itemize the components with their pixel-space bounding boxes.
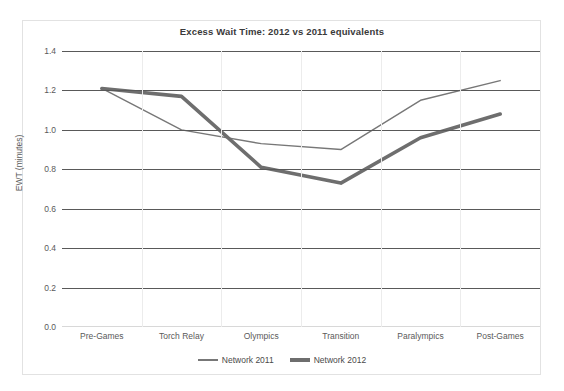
y-tick-label: 0.8 bbox=[22, 164, 56, 174]
legend-label: Network 2011 bbox=[222, 355, 274, 365]
chart-container: Excess Wait Time: 2012 vs 2011 equivalen… bbox=[0, 0, 564, 391]
y-tick-label: 1.0 bbox=[22, 125, 56, 135]
y-tick-label: 0.6 bbox=[22, 204, 56, 214]
chart-title: Excess Wait Time: 2012 vs 2011 equivalen… bbox=[0, 26, 564, 37]
category-divider bbox=[301, 51, 302, 327]
y-tick-label: 1.4 bbox=[22, 46, 56, 56]
y-tick-label: 0.4 bbox=[22, 243, 56, 253]
x-tick-label: Paralympics bbox=[397, 331, 443, 341]
x-tick-label: Torch Relay bbox=[159, 331, 204, 341]
chart-legend: Network 2011Network 2012 bbox=[0, 355, 564, 365]
legend-line-swatch bbox=[198, 359, 218, 361]
y-tick-label: 1.2 bbox=[22, 85, 56, 95]
x-axis-tick-labels: Pre-GamesTorch RelayOlympicsTransitionPa… bbox=[62, 331, 540, 349]
category-divider bbox=[460, 51, 461, 327]
x-tick-label: Transition bbox=[322, 331, 359, 341]
legend-item-network-2012[interactable]: Network 2012 bbox=[290, 355, 366, 365]
category-divider bbox=[221, 51, 222, 327]
y-tick-label: 0.0 bbox=[22, 322, 56, 332]
y-tick-label: 0.2 bbox=[22, 283, 56, 293]
category-divider bbox=[142, 51, 143, 327]
legend-label: Network 2012 bbox=[314, 355, 366, 365]
category-divider bbox=[381, 51, 382, 327]
plot-area bbox=[62, 51, 540, 327]
x-tick-label: Post-Games bbox=[477, 331, 524, 341]
legend-item-network-2011[interactable]: Network 2011 bbox=[198, 355, 274, 365]
x-tick-label: Olympics bbox=[244, 331, 279, 341]
legend-line-swatch bbox=[290, 358, 310, 362]
x-tick-label: Pre-Games bbox=[80, 331, 123, 341]
y-axis-tick-labels: 1.41.21.00.80.60.40.20.0 bbox=[20, 51, 56, 327]
